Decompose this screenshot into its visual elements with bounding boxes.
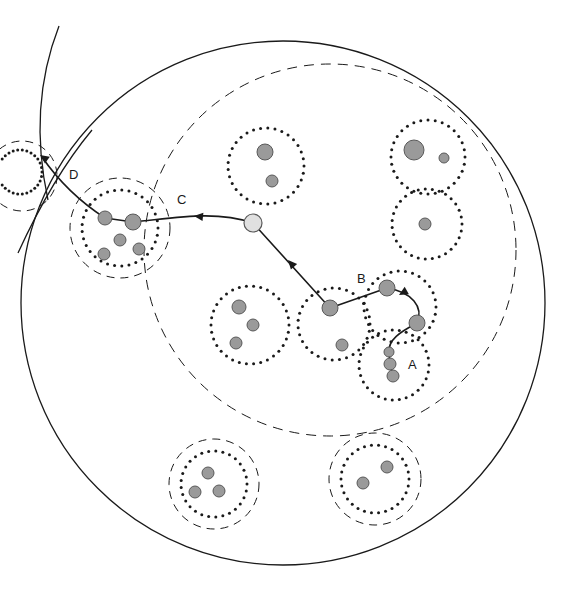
ring-dot bbox=[421, 383, 424, 386]
path-layer bbox=[40, 155, 419, 376]
ring-dot bbox=[297, 319, 300, 322]
cluster-left-middle-nodes bbox=[230, 300, 259, 349]
ring-dot bbox=[303, 165, 306, 168]
ring-dot bbox=[411, 334, 414, 337]
labels-layer: ABCD bbox=[69, 167, 417, 372]
ring-dot bbox=[406, 186, 409, 189]
ring-dot bbox=[12, 150, 15, 153]
ring-dot bbox=[457, 135, 460, 138]
cluster-node bbox=[384, 347, 394, 357]
ring-dot bbox=[25, 191, 28, 194]
ring-dot bbox=[25, 150, 28, 153]
ring-dot bbox=[181, 493, 184, 496]
cluster-D-dashed-ring bbox=[70, 178, 170, 278]
ring-dot bbox=[246, 197, 249, 200]
cluster-bottom-right bbox=[329, 433, 421, 525]
white-node bbox=[244, 214, 262, 232]
ring-dot bbox=[36, 183, 39, 186]
ring-dot bbox=[310, 294, 313, 297]
ring-dot bbox=[40, 175, 43, 178]
ring-dot bbox=[406, 125, 409, 128]
ring-dot bbox=[245, 362, 248, 365]
ring-dot bbox=[392, 170, 395, 173]
ring-dot bbox=[352, 353, 355, 356]
ring-dot bbox=[252, 129, 255, 132]
ring-dot bbox=[405, 331, 408, 334]
cluster-node bbox=[133, 243, 145, 255]
ring-dot bbox=[400, 129, 403, 132]
cluster-B-nodes bbox=[379, 280, 425, 331]
ring-dot bbox=[252, 200, 255, 203]
ring-dot bbox=[405, 396, 408, 399]
cluster-D-dotted-ring bbox=[81, 189, 160, 268]
label-B: B bbox=[357, 271, 366, 286]
ring-dot bbox=[444, 193, 447, 196]
ring-dot bbox=[364, 316, 367, 319]
ring-dot bbox=[266, 358, 269, 361]
ring-dot bbox=[298, 333, 301, 336]
ring-dot bbox=[428, 285, 431, 288]
ring-dot bbox=[141, 257, 144, 260]
ring-dot bbox=[120, 264, 123, 267]
ring-dot bbox=[384, 397, 387, 400]
ring-dot bbox=[357, 349, 360, 352]
ring-dot bbox=[363, 510, 366, 513]
ring-dot bbox=[461, 170, 464, 173]
ring-dot bbox=[342, 491, 345, 494]
ring-dot bbox=[444, 252, 447, 255]
ring-dot bbox=[1, 158, 4, 161]
ring-dot bbox=[273, 201, 276, 204]
ring-dot bbox=[428, 364, 431, 367]
cluster-node bbox=[384, 358, 396, 370]
ring-dot bbox=[346, 458, 349, 461]
cluster-bottom-left-dotted-ring bbox=[180, 450, 249, 519]
ring-dot bbox=[450, 248, 453, 251]
ring-dot bbox=[340, 485, 343, 488]
ring-dot bbox=[288, 324, 291, 327]
ring-dot bbox=[427, 356, 430, 359]
ring-dot bbox=[431, 257, 434, 260]
ring-dot bbox=[120, 189, 123, 192]
ring-dot bbox=[259, 202, 262, 205]
ring-dot bbox=[460, 230, 463, 233]
cluster-node bbox=[114, 234, 126, 246]
ring-dot bbox=[370, 444, 373, 447]
ring-dot bbox=[351, 452, 354, 455]
ring-dot bbox=[404, 195, 407, 198]
ring-dot bbox=[453, 129, 456, 132]
cluster-D bbox=[70, 178, 170, 278]
ring-dot bbox=[407, 470, 410, 473]
ring-dot bbox=[396, 452, 399, 455]
ring-dot bbox=[210, 316, 213, 319]
ring-dot bbox=[461, 141, 464, 144]
ring-dot bbox=[180, 479, 183, 482]
ring-dot bbox=[305, 299, 308, 302]
ring-dot bbox=[427, 371, 430, 374]
ring-dot bbox=[395, 239, 398, 242]
ring-dot bbox=[301, 340, 304, 343]
ring-dot bbox=[85, 209, 88, 212]
ring-dot bbox=[363, 302, 366, 305]
cluster-node bbox=[322, 300, 338, 316]
ring-dot bbox=[391, 329, 394, 332]
ring-dot bbox=[408, 478, 411, 481]
ring-dot bbox=[435, 306, 438, 309]
ring-dot bbox=[238, 361, 241, 364]
ring-dot bbox=[287, 331, 290, 334]
cluster-top-middle bbox=[227, 127, 306, 206]
ring-dot bbox=[300, 150, 303, 153]
ring-dot bbox=[16, 149, 19, 152]
ring-dot bbox=[359, 374, 362, 377]
ring-dot bbox=[231, 147, 234, 150]
ring-dot bbox=[1, 183, 4, 186]
ring-dot bbox=[352, 292, 355, 295]
ring-dot bbox=[410, 191, 413, 194]
ring-dot bbox=[302, 157, 305, 160]
ring-dot bbox=[231, 289, 234, 292]
ring-dot bbox=[363, 309, 366, 312]
ring-dot bbox=[266, 127, 269, 130]
ring-dot bbox=[210, 324, 213, 327]
ring-dot bbox=[391, 219, 394, 222]
ring-dot bbox=[404, 341, 407, 344]
ring-dot bbox=[266, 289, 269, 292]
